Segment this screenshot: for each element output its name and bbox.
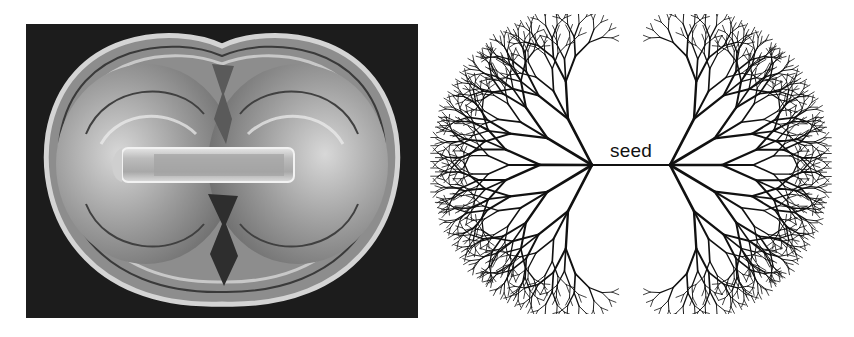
fractal-tree-diagram	[430, 14, 840, 314]
crystal-micrograph-image	[26, 24, 418, 318]
seed-label: seed	[610, 140, 652, 162]
fractal-diagram-panel: seed	[430, 14, 840, 314]
micrograph-panel	[26, 24, 418, 318]
